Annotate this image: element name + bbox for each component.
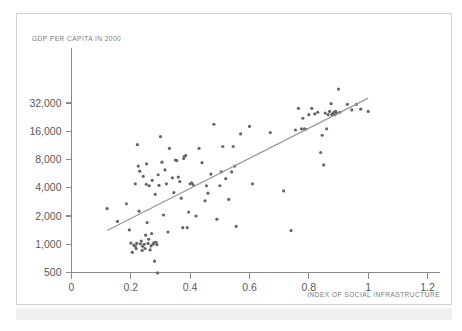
data-point [150,232,153,235]
data-point [106,207,109,210]
data-point [209,172,212,175]
data-point [269,131,272,134]
data-point [157,173,160,176]
data-point [141,249,144,252]
data-point [178,180,181,183]
data-point [137,165,140,168]
data-point [163,168,166,171]
data-point [239,132,242,135]
data-point [215,218,218,221]
y-tick-label: 1,000 [35,238,61,250]
data-point [181,226,184,229]
data-point [166,230,169,233]
data-point [324,111,327,114]
data-point [128,228,131,231]
data-point [251,182,254,185]
x-tick-label: 0.6 [242,281,257,293]
y-axis-ticks: 5001,0002,0004,0008,00016,00032,000 [29,97,71,279]
data-point [157,184,160,187]
data-point [134,182,137,185]
data-point [135,242,138,245]
y-axis-title: GDP PER CAPITA IN 2000 [32,35,121,42]
data-point [154,193,157,196]
data-point [307,113,310,116]
data-point [180,197,183,200]
data-point [316,111,319,114]
data-point [325,127,328,130]
y-tick-label: 16,000 [29,125,61,137]
data-point [230,170,233,173]
data-point [149,248,152,251]
data-point [322,163,325,166]
y-tick-label: 32,000 [29,97,61,109]
data-point [148,184,151,187]
data-point [212,123,215,126]
scatter-plot: GDP PER CAPITA IN 2000 5001,0002,0004,00… [0,0,462,331]
data-point [151,179,154,182]
data-point [147,238,150,241]
data-point [359,108,362,111]
data-point [184,154,187,157]
data-point [153,260,156,263]
data-point [221,145,224,148]
data-point [187,211,190,214]
data-point [146,242,149,245]
data-point [235,225,238,228]
data-point [289,229,292,232]
data-point [116,220,119,223]
data-point [200,161,203,164]
y-tick-label: 8,000 [35,153,61,165]
data-point [144,234,147,237]
data-point [172,191,175,194]
data-point [327,113,330,116]
data-point [175,159,178,162]
data-point [143,247,146,250]
data-point [313,112,316,115]
data-point [165,182,168,185]
data-point [232,145,235,148]
data-point [145,162,148,165]
data-point [135,247,138,250]
x-tick-label: 0 [69,281,75,293]
data-point [140,240,143,243]
data-point [171,176,174,179]
data-point [337,88,340,91]
data-point [159,135,162,138]
data-point [186,226,189,229]
data-point [321,134,324,137]
data-point [145,183,148,186]
data-point [146,221,149,224]
data-point [205,184,208,187]
data-point [168,147,171,150]
data-point [224,177,227,180]
y-tick-label: 2,000 [35,210,61,222]
data-point [227,198,230,201]
data-point [143,243,146,246]
x-tick-label: 0.2 [124,281,139,293]
data-points [106,88,370,275]
data-point [300,127,303,130]
data-point [138,170,141,173]
data-point [125,202,128,205]
data-point [155,243,158,246]
data-point [301,117,304,120]
figure-root: GDP PER CAPITA IN 2000 5001,0002,0004,00… [0,0,462,331]
data-point [162,213,165,216]
data-point [329,102,332,105]
data-point [282,189,285,192]
data-point [367,110,370,113]
data-point [156,271,159,274]
data-point [310,107,313,110]
data-point [350,108,353,111]
data-point [195,214,198,217]
data-point [297,107,300,110]
data-point [319,151,322,154]
data-point [197,147,200,150]
x-axis-title: INDEX OF SOCIAL INFRASTRUCTURE [307,291,440,298]
y-axis-title-group: GDP PER CAPITA IN 2000 [32,35,121,42]
data-point [218,184,221,187]
data-point [346,103,349,106]
data-point [248,125,251,128]
data-point [136,143,139,146]
data-point [138,210,141,213]
